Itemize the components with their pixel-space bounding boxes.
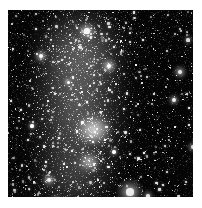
image-viewport — [0, 0, 202, 208]
astronomical-image-plate — [8, 10, 193, 197]
vignette-layer — [8, 10, 193, 197]
